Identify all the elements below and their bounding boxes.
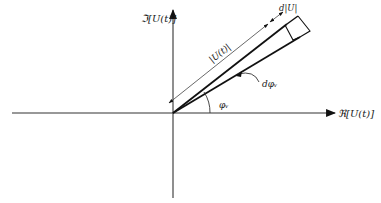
angle-increment-label: dφᵥ xyxy=(262,79,277,89)
increment-box xyxy=(285,16,310,40)
increment-dimension-line xyxy=(270,12,283,22)
imaginary-axis-label: ℑ[U(t)] xyxy=(141,13,176,24)
real-axis-label: ℜ[U(t)] xyxy=(338,108,374,119)
magnitude-dimension-line xyxy=(169,24,268,103)
phasor-diagram: ℑ[U(t)] ℜ[U(t)] |U(t)| d|U| dφᵥ φᵥ xyxy=(0,0,381,203)
phasor-upper xyxy=(173,24,287,113)
angle-label: φᵥ xyxy=(219,100,229,110)
angle-arc xyxy=(204,92,210,113)
phasor-upper-extension xyxy=(287,16,298,24)
magnitude-increment-label: d|U| xyxy=(279,3,297,14)
phasor-lower xyxy=(173,37,300,113)
